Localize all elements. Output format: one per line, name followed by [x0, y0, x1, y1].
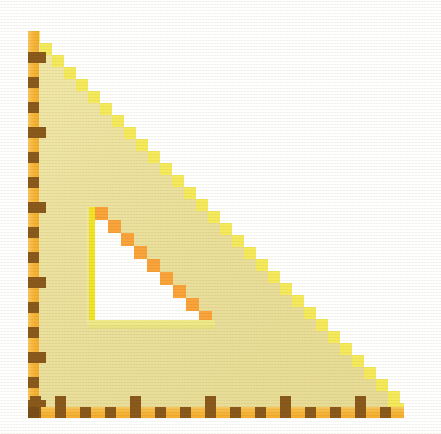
ruler-corner-mark	[28, 407, 39, 418]
inner-base-line	[89, 320, 215, 329]
set-square-artboard	[0, 0, 441, 434]
inner-left-edge	[86, 207, 95, 325]
canvas-stage	[0, 0, 441, 434]
set-square-svg	[0, 0, 441, 434]
